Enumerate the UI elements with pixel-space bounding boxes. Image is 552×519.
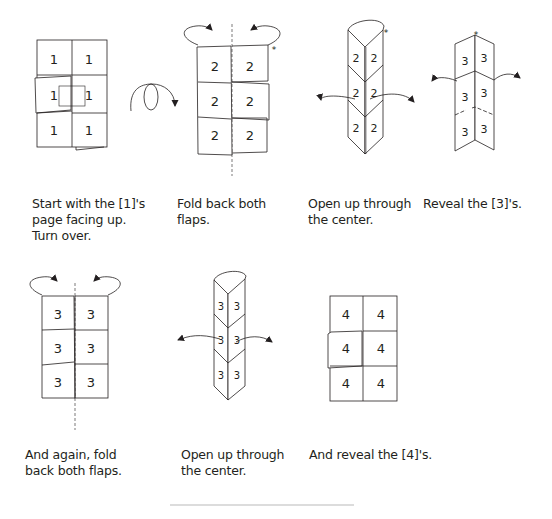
step-1-labels: 1 1 1 1 1 1 (50, 52, 93, 138)
step-7-labels: 4 4 4 4 4 4 (342, 307, 385, 391)
asterisk-marker: * (272, 45, 277, 55)
step-1-sheet (35, 40, 107, 150)
svg-text:1: 1 (50, 123, 58, 138)
svg-text:3: 3 (234, 335, 240, 346)
step-2-caption: Fold back both flaps. (177, 196, 266, 228)
step-6-column (178, 271, 272, 400)
svg-text:1: 1 (50, 88, 58, 103)
svg-text:2: 2 (371, 122, 378, 135)
svg-text:3: 3 (234, 370, 240, 381)
step-7-sheet (328, 296, 397, 401)
step-6-caption: Open up through the center. (181, 447, 284, 479)
step-1-caption: Start with the [1]'s page facing up. Tur… (32, 196, 145, 244)
svg-text:3: 3 (87, 375, 95, 390)
svg-text:3: 3 (87, 341, 95, 356)
svg-text:4: 4 (377, 376, 385, 391)
svg-text:3: 3 (481, 52, 488, 65)
step-7-caption: And reveal the [4]'s. (309, 447, 432, 463)
svg-text:3: 3 (87, 307, 95, 322)
step-3-caption: Open up through the center. (308, 196, 411, 228)
svg-text:1: 1 (85, 123, 93, 138)
step-4-caption: Reveal the [3]'s. (423, 196, 522, 212)
asterisk-marker: * (474, 30, 479, 40)
svg-text:2: 2 (211, 59, 219, 74)
svg-text:2: 2 (353, 87, 360, 100)
turn-over-arrow-icon (131, 84, 175, 111)
svg-text:1: 1 (85, 52, 93, 67)
svg-text:2: 2 (371, 52, 378, 65)
svg-text:1: 1 (85, 88, 93, 103)
step-2-sheet (184, 24, 280, 176)
svg-text:4: 4 (342, 376, 350, 391)
svg-text:3: 3 (218, 370, 224, 381)
svg-text:3: 3 (218, 335, 224, 346)
svg-text:2: 2 (353, 122, 360, 135)
svg-text:3: 3 (481, 87, 488, 100)
svg-text:3: 3 (218, 301, 224, 312)
step-3-column (321, 20, 414, 154)
asterisk-marker: * (384, 28, 389, 38)
folding-diagram: 1 1 1 1 1 1 2 2 2 2 (0, 0, 552, 519)
svg-text:2: 2 (246, 128, 254, 143)
svg-text:2: 2 (211, 94, 219, 109)
svg-text:4: 4 (377, 341, 385, 356)
svg-text:4: 4 (342, 341, 350, 356)
svg-text:1: 1 (50, 52, 58, 67)
step-5-caption: And again, fold back both flaps. (25, 447, 122, 479)
svg-text:3: 3 (54, 307, 62, 322)
step-4-vfold (432, 35, 520, 151)
svg-text:2: 2 (246, 59, 254, 74)
svg-text:3: 3 (462, 126, 469, 139)
svg-text:3: 3 (462, 55, 469, 68)
svg-text:4: 4 (342, 307, 350, 322)
svg-text:3: 3 (54, 375, 62, 390)
svg-text:2: 2 (211, 128, 219, 143)
svg-text:3: 3 (234, 301, 240, 312)
svg-text:3: 3 (462, 91, 469, 104)
step-5-sheet (30, 277, 120, 430)
divider (170, 504, 354, 506)
svg-text:4: 4 (377, 307, 385, 322)
svg-text:2: 2 (371, 87, 378, 100)
svg-text:3: 3 (54, 341, 62, 356)
svg-text:2: 2 (246, 94, 254, 109)
svg-text:3: 3 (481, 123, 488, 136)
svg-text:2: 2 (353, 52, 360, 65)
